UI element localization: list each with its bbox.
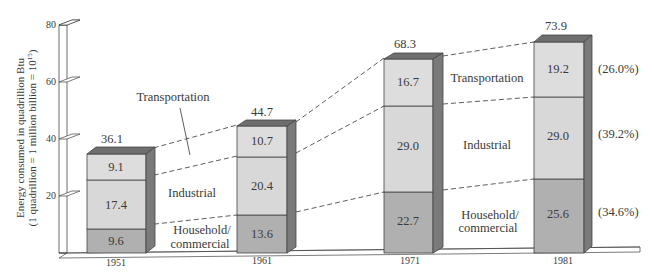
bar-1951-total: 36.1 (101, 132, 123, 146)
label-household-left-1: Household/ (173, 223, 231, 237)
transport-leader-line (180, 108, 190, 155)
label-industrial-left: Industrial (168, 186, 216, 200)
bar-1951-transport: 9.1 (108, 160, 124, 174)
label-transportation-left: Transportation (136, 90, 210, 104)
bar-1951-industrial: 17.4 (105, 198, 128, 212)
bar-1981-industrial: 29.0 (547, 129, 569, 143)
x-label-1961: 1961 (252, 255, 272, 266)
y-tick-60: 60 (46, 76, 56, 87)
bar-1961-transport: 10.7 (251, 134, 273, 148)
energy-stacked-bar-chart: 20 40 60 80 Energy consumed in quadrilli… (0, 0, 654, 278)
bar-1971-transport: 16.7 (397, 75, 419, 89)
pct-industrial: (39.2%) (598, 127, 639, 141)
bar-1961: 13.6 20.4 10.7 44.7 1961 (237, 105, 296, 266)
svg-text:(1 quadrillion = 1 million bil: (1 quadrillion = 1 million billion = 101… (26, 49, 39, 226)
bar-1951: 9.6 17.4 9.1 36.1 1951 (87, 132, 155, 268)
bar-1961-household: 13.6 (251, 227, 273, 241)
y-tick-20: 20 (46, 190, 56, 201)
svg-text:Energy consumed in quadrillion: Energy consumed in quadrillion Btu (14, 58, 26, 218)
bar-1951-household: 9.6 (108, 234, 124, 248)
bar-1981: 25.6 29.0 19.2 73.9 1981 (534, 19, 592, 266)
bar-1981-total: 73.9 (545, 19, 567, 33)
bar-1971-total: 68.3 (394, 37, 416, 51)
bar-1971-household: 22.7 (397, 214, 419, 228)
bar-1961-total: 44.7 (251, 105, 273, 119)
label-industrial-right: Industrial (463, 138, 511, 152)
bar-1971: 22.7 29.0 16.7 68.3 1971 (384, 37, 443, 266)
bar-1981-transport: 19.2 (547, 62, 569, 76)
bar-1971-industrial: 29.0 (397, 139, 419, 153)
y-axis-label: Energy consumed in quadrillion Btu (1 qu… (14, 49, 39, 226)
bar-1961-industrial: 20.4 (251, 179, 274, 193)
x-label-1981: 1981 (553, 255, 573, 266)
label-household-right-2: commercial (459, 221, 519, 235)
y-tick-80: 80 (46, 19, 56, 30)
pct-transportation: (26.0%) (598, 62, 639, 76)
x-label-1971: 1971 (400, 255, 420, 266)
x-label-1951: 1951 (106, 257, 126, 268)
label-transportation-right: Transportation (450, 71, 524, 85)
pct-household: (34.6%) (598, 205, 639, 219)
y-tick-40: 40 (46, 133, 56, 144)
label-household-right-1: Household/ (461, 208, 519, 222)
bar-1981-household: 25.6 (547, 207, 569, 221)
label-household-left-2: commercial (171, 237, 231, 251)
